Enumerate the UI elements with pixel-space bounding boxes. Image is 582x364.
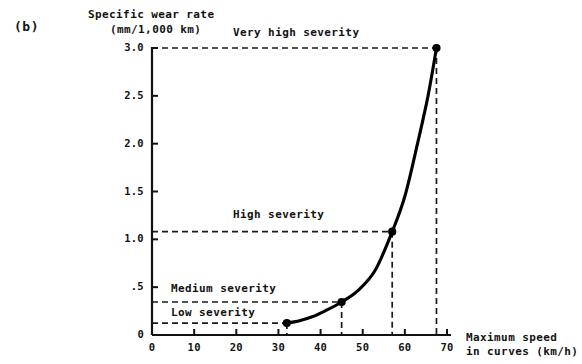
plot-area xyxy=(0,0,582,364)
data-point-marker xyxy=(338,298,346,306)
x-tick-label: 30 xyxy=(258,341,298,353)
threshold-lines-group xyxy=(152,48,436,323)
y-tick-label: 1.5 xyxy=(0,185,144,197)
data-curve-group xyxy=(287,48,437,323)
y-tick-label: .5 xyxy=(0,280,144,292)
x-tick-label: 20 xyxy=(216,341,256,353)
x-tick-label: 0 xyxy=(132,341,172,353)
y-tick-label: 0 xyxy=(0,328,144,340)
y-tick-label: 3.0 xyxy=(0,41,144,53)
y-tick-label: 1.0 xyxy=(0,232,144,244)
x-tick-label: 60 xyxy=(385,341,425,353)
x-tick-label: 70 xyxy=(427,341,467,353)
drop-lines-group xyxy=(287,48,437,335)
x-tick-label: 40 xyxy=(301,341,341,353)
data-point-marker xyxy=(388,228,396,236)
data-point-marker xyxy=(432,44,440,52)
x-tick-label: 10 xyxy=(174,341,214,353)
axis-ticks-group xyxy=(152,48,447,335)
x-tick-label: 50 xyxy=(343,341,383,353)
chart-figure: (b) Specific wear rate (mm/1,000 km) Max… xyxy=(0,0,582,364)
data-markers-group xyxy=(283,44,441,327)
y-tick-label: 2.5 xyxy=(0,89,144,101)
wear-rate-curve xyxy=(287,48,437,323)
data-point-marker xyxy=(283,319,291,327)
y-tick-label: 2.0 xyxy=(0,137,144,149)
